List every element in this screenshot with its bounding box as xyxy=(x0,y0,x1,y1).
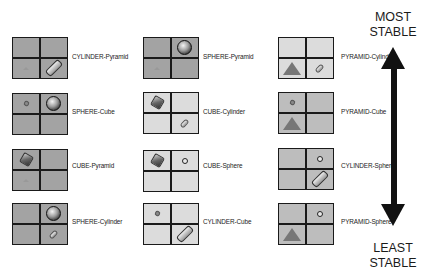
pair-label: SPHERE-Pyramid xyxy=(203,53,253,60)
grid-cylinder-cube xyxy=(143,203,199,245)
stable-label: STABLE xyxy=(358,25,425,40)
grid-cell xyxy=(144,38,170,57)
pyramid-icon xyxy=(23,67,29,70)
sphere-icon xyxy=(46,206,61,221)
arrow-up-icon xyxy=(381,47,405,69)
pair-label: PYRAMID-Cube xyxy=(341,108,386,115)
grid-cell xyxy=(172,151,198,170)
least-label: LEAST xyxy=(358,241,425,256)
cylinder-icon xyxy=(45,59,63,77)
grid-cylinder-pyramid xyxy=(12,37,68,79)
pair-label: SPHERE-Cylinder xyxy=(72,218,122,225)
grid-cell xyxy=(307,149,333,168)
pyramid-icon xyxy=(283,62,301,75)
grid-cylinder-sphere xyxy=(278,148,334,190)
pyramid-icon xyxy=(283,117,301,130)
cylinder-icon xyxy=(311,170,329,188)
grid-cell xyxy=(279,225,305,244)
most-stable-label: MOST STABLE xyxy=(358,10,425,40)
grid-cell xyxy=(307,204,333,223)
grid-cell xyxy=(144,172,170,191)
grid-cell xyxy=(41,171,67,190)
least-stable-label: LEAST STABLE xyxy=(358,241,425,271)
grid-cell xyxy=(13,204,39,223)
grid-cell xyxy=(172,114,198,133)
grid-cell xyxy=(13,59,39,78)
pair-label: CYLINDER-Cube xyxy=(203,218,251,225)
grid-cell xyxy=(279,59,305,78)
cube-icon xyxy=(289,99,296,106)
pair-label: CUBE-Cylinder xyxy=(203,108,245,115)
stability-arrow-shaft xyxy=(391,68,397,206)
grid-cube-cylinder xyxy=(143,92,199,134)
grid-cell xyxy=(172,38,198,57)
grid-cell xyxy=(13,94,39,113)
grid-cell xyxy=(279,204,305,223)
grid-cell xyxy=(172,172,198,191)
pair-label: CYLINDER-Sphere xyxy=(341,162,395,169)
grid-cell xyxy=(172,59,198,78)
sphere-icon xyxy=(46,96,61,111)
cylinder-icon xyxy=(49,229,59,239)
grid-cell xyxy=(307,114,333,133)
most-label: MOST xyxy=(358,10,425,25)
grid-cube-sphere xyxy=(143,150,199,192)
cube-icon xyxy=(23,100,30,107)
grid-cell xyxy=(307,93,333,112)
grid-cell xyxy=(172,93,198,112)
sphere-icon xyxy=(317,211,323,217)
cube-icon xyxy=(19,152,34,167)
pyramid-icon xyxy=(154,67,160,70)
sphere-icon xyxy=(182,158,188,164)
grid-pyramid-cylinder xyxy=(278,37,334,79)
grid-sphere-cylinder xyxy=(12,203,68,245)
grid-cell xyxy=(307,38,333,57)
grid-cell xyxy=(41,115,67,134)
pair-label: CYLINDER-Pyramid xyxy=(72,53,128,60)
pair-label: SPHERE-Cube xyxy=(72,108,115,115)
grid-cell xyxy=(144,204,170,223)
cube-icon xyxy=(154,210,161,217)
arrow-down-icon xyxy=(381,204,405,226)
grid-cell xyxy=(41,204,67,223)
grid-cell xyxy=(172,225,198,244)
cylinder-icon xyxy=(315,63,325,73)
pair-label: CUBE-Sphere xyxy=(203,162,242,169)
grid-pyramid-cube xyxy=(278,92,334,134)
grid-cell xyxy=(41,225,67,244)
grid-cell xyxy=(307,225,333,244)
cube-icon xyxy=(150,153,165,168)
cube-icon xyxy=(150,95,165,110)
grid-sphere-pyramid xyxy=(143,37,199,79)
grid-cell xyxy=(144,225,170,244)
grid-cell xyxy=(172,204,198,223)
grid-cell xyxy=(279,149,305,168)
grid-cell xyxy=(144,93,170,112)
sphere-icon xyxy=(317,156,323,162)
grid-cell xyxy=(41,38,67,57)
grid-cell xyxy=(13,150,39,169)
grid-cell xyxy=(307,170,333,189)
grid-cell xyxy=(144,151,170,170)
grid-cell xyxy=(41,94,67,113)
pair-label: CUBE-Pyramid xyxy=(72,162,114,169)
grid-cell xyxy=(13,38,39,57)
grid-cell xyxy=(279,114,305,133)
grid-cell xyxy=(279,170,305,189)
sphere-icon xyxy=(177,40,192,55)
grid-cell xyxy=(144,59,170,78)
grid-cell xyxy=(13,115,39,134)
grid-cell xyxy=(144,114,170,133)
grid-cell xyxy=(41,150,67,169)
grid-sphere-cube xyxy=(12,93,68,135)
cylinder-icon xyxy=(176,225,194,243)
grid-cell xyxy=(307,59,333,78)
cylinder-icon xyxy=(180,118,190,128)
grid-pyramid-sphere xyxy=(278,203,334,245)
grid-cell xyxy=(279,93,305,112)
grid-cell xyxy=(13,225,39,244)
pyramid-icon xyxy=(23,179,29,182)
grid-cell xyxy=(279,38,305,57)
grid-cell xyxy=(41,59,67,78)
grid-cube-pyramid xyxy=(12,149,68,191)
